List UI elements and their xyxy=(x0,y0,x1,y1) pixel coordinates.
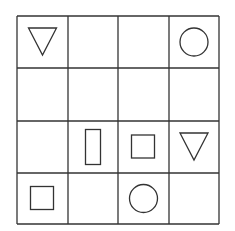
grid-lines xyxy=(17,16,219,224)
square-shape xyxy=(132,135,155,158)
triangle-down-shape xyxy=(180,133,208,160)
triangle-down-shape xyxy=(29,28,57,55)
square-shape xyxy=(31,187,54,210)
circle-shape xyxy=(180,28,208,56)
circle-shape xyxy=(130,185,158,213)
rectangle-shape xyxy=(86,130,101,165)
grid-svg xyxy=(0,0,235,231)
grid-puzzle xyxy=(0,0,235,231)
